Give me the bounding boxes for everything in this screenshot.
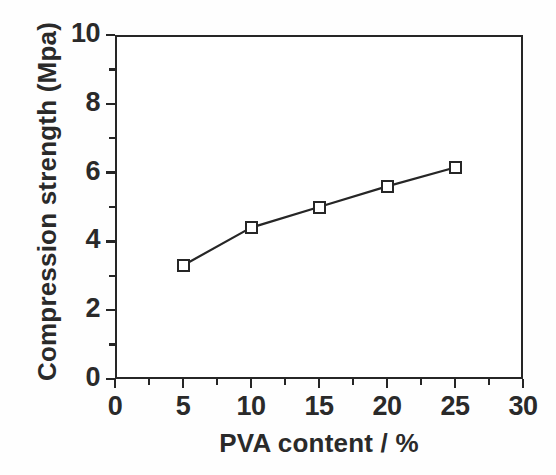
chart-figure: 0246810051015202530 Compression strength…	[0, 0, 556, 475]
y-tick-major	[106, 171, 115, 174]
y-tick-major	[106, 103, 115, 106]
y-tick-minor	[109, 137, 115, 140]
x-tick-minor	[420, 379, 423, 385]
x-tick-minor	[148, 379, 151, 385]
x-tick-label: 30	[493, 391, 553, 422]
x-tick-label: 10	[221, 391, 281, 422]
y-axis-title: Compression strength (Mpa)	[32, 22, 63, 382]
y-tick-minor	[109, 343, 115, 346]
x-axis-title: PVA content / %	[115, 428, 523, 459]
y-tick-minor	[109, 275, 115, 278]
x-tick-major	[454, 379, 457, 388]
x-tick-major	[250, 379, 253, 388]
x-tick-label: 5	[153, 391, 213, 422]
x-tick-minor	[216, 379, 219, 385]
x-tick-major	[182, 379, 185, 388]
x-tick-minor	[284, 379, 287, 385]
x-tick-major	[318, 379, 321, 388]
y-tick-major	[106, 240, 115, 243]
x-tick-label: 20	[357, 391, 417, 422]
y-tick-minor	[109, 68, 115, 71]
x-tick-minor	[352, 379, 355, 385]
x-tick-label: 25	[425, 391, 485, 422]
y-tick-major	[106, 34, 115, 37]
x-tick-label: 15	[289, 391, 349, 422]
x-tick-major	[522, 379, 525, 388]
x-tick-major	[114, 379, 117, 388]
x-tick-label: 0	[85, 391, 145, 422]
y-tick-minor	[109, 206, 115, 209]
x-tick-major	[386, 379, 389, 388]
plot-frame	[115, 35, 523, 379]
y-tick-major	[106, 309, 115, 312]
x-tick-minor	[488, 379, 491, 385]
